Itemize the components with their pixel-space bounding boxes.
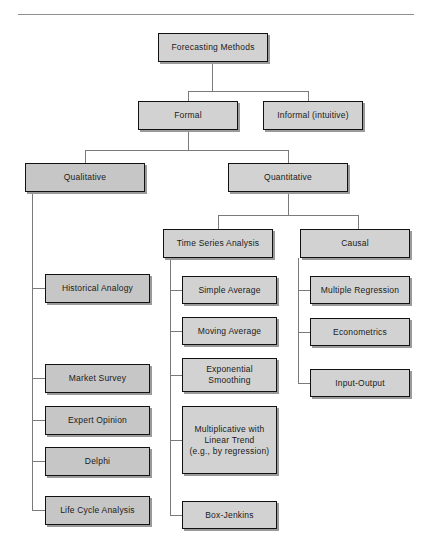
- node-label: Multiplicative with Linear Trend (e.g., …: [190, 424, 270, 457]
- node-label: Delphi: [85, 456, 110, 467]
- node-qualitative[interactable]: Qualitative: [25, 163, 145, 192]
- connector-formal-bus: [85, 150, 288, 151]
- connector-stub-expert-opinion: [32, 420, 45, 421]
- node-expert-opinion[interactable]: Expert Opinion: [45, 406, 150, 435]
- connector-causal-up: [358, 215, 359, 229]
- node-label: Box-Jenkins: [205, 510, 254, 521]
- node-label: Causal: [341, 238, 369, 249]
- node-life-cycle-analysis[interactable]: Life Cycle Analysis: [45, 496, 150, 525]
- connector-stub-delphi: [32, 461, 45, 462]
- connector-quantitative-up: [288, 150, 289, 163]
- connector-stub-multiplicative: [170, 440, 182, 441]
- node-label: Quantitative: [264, 172, 312, 183]
- connector-stub-econometrics: [298, 332, 310, 333]
- node-quantitative[interactable]: Quantitative: [228, 163, 348, 192]
- connector-stub-life-cycle-analysis: [32, 510, 45, 511]
- connector-qualitative-trunk: [32, 192, 33, 510]
- connector-formal-up: [188, 91, 189, 101]
- connector-quantitative-bus: [218, 215, 358, 216]
- node-label: Input-Output: [335, 378, 385, 389]
- connector-root-down: [212, 62, 213, 91]
- node-historical-analogy[interactable]: Historical Analogy: [45, 274, 150, 303]
- node-label: Forecasting Methods: [171, 42, 254, 53]
- node-label: Expert Opinion: [68, 415, 127, 426]
- node-econometrics[interactable]: Econometrics: [310, 318, 410, 346]
- connector-stub-simple-average: [170, 290, 182, 291]
- connector-causal-trunk: [298, 258, 299, 383]
- node-label: Simple Average: [198, 285, 260, 296]
- connector-stub-box-jenkins: [170, 515, 182, 516]
- node-forecasting-methods[interactable]: Forecasting Methods: [158, 33, 268, 62]
- connector-timeseries-trunk: [170, 258, 171, 515]
- node-multiplicative-linear-trend[interactable]: Multiplicative with Linear Trend (e.g., …: [182, 406, 277, 474]
- node-label: Multiple Regression: [321, 285, 399, 296]
- connector-informal-up: [308, 91, 309, 101]
- node-formal[interactable]: Formal: [138, 101, 238, 130]
- connector-stub-historical-analogy: [32, 288, 45, 289]
- node-label: Qualitative: [64, 172, 106, 183]
- node-causal[interactable]: Causal: [300, 229, 410, 258]
- node-delphi[interactable]: Delphi: [45, 447, 150, 476]
- node-label: Moving Average: [198, 326, 262, 337]
- node-label: Econometrics: [333, 327, 387, 338]
- node-multiple-regression[interactable]: Multiple Regression: [310, 276, 410, 304]
- node-simple-average[interactable]: Simple Average: [182, 276, 277, 304]
- top-divider-rule: [18, 14, 414, 15]
- node-moving-average[interactable]: Moving Average: [182, 317, 277, 345]
- connector-stub-market-survey: [32, 378, 45, 379]
- forecasting-methods-diagram: Forecasting Methods Formal Informal (int…: [0, 0, 446, 546]
- node-label: Time Series Analysis: [177, 238, 260, 249]
- connector-stub-input-output: [298, 383, 310, 384]
- node-time-series-analysis[interactable]: Time Series Analysis: [163, 229, 273, 258]
- node-input-output[interactable]: Input-Output: [310, 369, 410, 397]
- connector-quantitative-down: [288, 192, 289, 215]
- connector-stub-moving-average: [170, 331, 182, 332]
- node-box-jenkins[interactable]: Box-Jenkins: [182, 501, 277, 529]
- node-label: Informal (intuitive): [277, 110, 349, 121]
- node-label: Market Survey: [69, 373, 126, 384]
- node-informal[interactable]: Informal (intuitive): [263, 101, 363, 130]
- connector-qualitative-up: [85, 150, 86, 163]
- connector-formal-down: [188, 130, 189, 150]
- connector-stub-multiple-regression: [298, 290, 310, 291]
- connector-stub-exponential-smoothing: [170, 375, 182, 376]
- node-exponential-smoothing[interactable]: Exponential Smoothing: [182, 358, 277, 392]
- connector-timeseries-up: [218, 215, 219, 229]
- node-label: Exponential Smoothing: [206, 364, 253, 386]
- connector-root-bus: [188, 91, 308, 92]
- node-market-survey[interactable]: Market Survey: [45, 364, 150, 393]
- node-label: Historical Analogy: [62, 283, 133, 294]
- node-label: Formal: [174, 110, 202, 121]
- node-label: Life Cycle Analysis: [60, 505, 135, 516]
